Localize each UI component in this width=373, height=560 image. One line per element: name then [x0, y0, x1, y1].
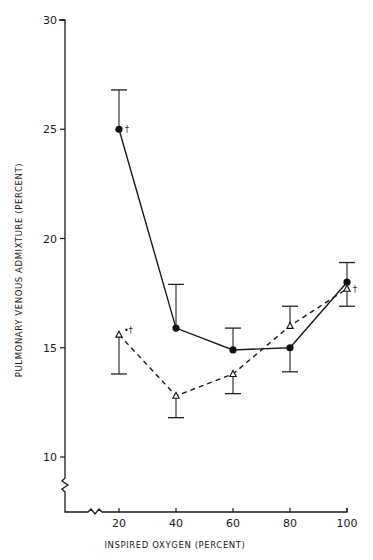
x-tick-label: 60: [226, 517, 240, 530]
axis-ticks: 101520253020406080100: [43, 14, 358, 530]
y-tick-label: 20: [43, 233, 57, 246]
data-point-filled-circle: [115, 126, 122, 133]
significance-marker: †: [125, 125, 129, 134]
x-tick-label: 20: [112, 517, 126, 530]
y-tick-label: 10: [43, 451, 57, 464]
x-tick-label: 40: [169, 517, 183, 530]
y-tick-label: 15: [43, 342, 57, 355]
x-tick-label: 80: [283, 517, 297, 530]
y-tick-label: 25: [43, 123, 57, 136]
significance-marker: •†: [124, 326, 133, 335]
data-point-filled-circle: [229, 346, 236, 353]
x-tick-label: 100: [337, 517, 358, 530]
data-point-open-triangle: [344, 285, 350, 291]
data-point-filled-circle: [172, 324, 179, 331]
series-filled-circles: †: [111, 90, 355, 372]
y-tick-label: 30: [43, 14, 57, 27]
y-axis-title: PULMONARY VENOUS ADMIXTURE (PERCENT): [14, 163, 24, 377]
significance-marker: †: [353, 285, 357, 294]
chart: 101520253020406080100 †•†† INSPIRED OXYG…: [0, 0, 373, 560]
axis-lines: [59, 20, 347, 514]
axes: [59, 20, 347, 514]
x-axis-title: INSPIRED OXYGEN (PERCENT): [104, 540, 245, 550]
data-point-filled-circle: [286, 344, 293, 351]
data-point-open-triangle: [287, 322, 293, 328]
data-series: †•††: [111, 90, 357, 418]
data-point-open-triangle: [116, 331, 122, 337]
series-line: [119, 129, 347, 350]
